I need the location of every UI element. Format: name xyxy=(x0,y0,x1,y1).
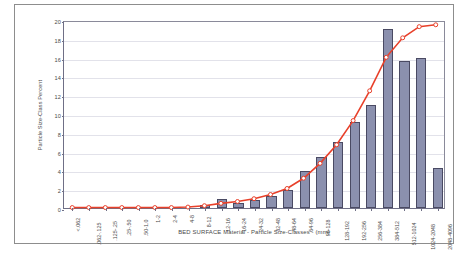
x-axis-tick-label: 4-8 xyxy=(188,215,194,223)
chart-frame: Particle Size-Class Percent 024681012141… xyxy=(14,4,454,244)
y-axis-tick-label: 10 xyxy=(55,113,61,119)
line-marker xyxy=(318,161,322,165)
line-marker xyxy=(269,193,273,197)
y-axis-tick-label: 12 xyxy=(55,94,61,100)
line-marker xyxy=(219,201,223,205)
x-axis-tick-label: 1-2 xyxy=(155,215,161,223)
x-axis-tick-label: 2048-4096 xyxy=(447,224,453,250)
line-marker xyxy=(335,143,339,147)
y-axis-tick-label: 16 xyxy=(55,57,61,63)
x-axis-category-labels: <.062.062-.125.125-.25.25-.50.50-1.01-22… xyxy=(63,211,445,245)
line-marker xyxy=(434,23,438,27)
line-marker xyxy=(401,36,405,40)
line-marker xyxy=(351,119,355,123)
line-marker xyxy=(302,176,306,180)
line-marker xyxy=(285,186,289,190)
line-marker xyxy=(384,55,388,59)
y-axis-title: Particle Size-Class Percent xyxy=(35,21,45,209)
line-marker xyxy=(235,200,239,204)
plot-area: 02468101214161820 xyxy=(63,21,445,209)
x-axis-tick-label: 2-4 xyxy=(172,215,178,223)
x-axis-tick-label: 1024-2048 xyxy=(430,224,436,250)
x-axis-title: BED SURFACE Material - Particle Size-Cla… xyxy=(63,229,445,235)
y-axis-title-label: Particle Size-Class Percent xyxy=(37,80,43,150)
line-marker xyxy=(417,25,421,29)
line-marker xyxy=(368,89,372,93)
x-axis-tick-label: 8-12 xyxy=(207,216,213,227)
y-axis-tick-label: 18 xyxy=(55,38,61,44)
y-axis-tick-label: 20 xyxy=(55,19,61,25)
line-marker xyxy=(252,197,256,201)
y-axis-tick-label: 14 xyxy=(55,75,61,81)
cumulative-line-series xyxy=(64,22,444,208)
